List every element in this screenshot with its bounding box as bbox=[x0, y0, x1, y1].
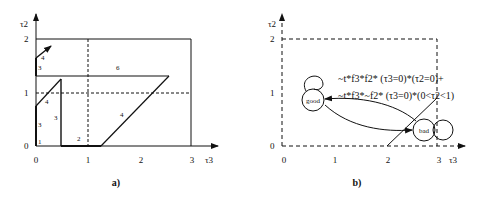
guard-line-2: ~t*f3*~f2* (τ3=0)*(0<τ2<1) bbox=[338, 90, 454, 102]
x-tick-0-a: 0 bbox=[34, 155, 39, 165]
y-tick-0-a: 0 bbox=[24, 141, 29, 151]
region-label-1: 1 bbox=[38, 138, 42, 146]
region-label-4-top: 4 bbox=[41, 54, 45, 62]
region-label-2: 2 bbox=[77, 135, 81, 143]
region-label-4-small: 4 bbox=[45, 98, 49, 106]
panel-a: 0 1 2 3 τ3 0 1 2 τ2 1 2 3 3 3 4 4 4 6 a) bbox=[20, 14, 218, 189]
y-tick-2-a: 2 bbox=[24, 34, 29, 44]
state-good-label: good bbox=[306, 97, 321, 105]
y-tick-0-b: 0 bbox=[270, 141, 275, 151]
x-axis-label-a: τ3 bbox=[205, 155, 214, 165]
figure-canvas: 0 1 2 3 τ3 0 1 2 τ2 1 2 3 3 3 4 4 4 6 a)… bbox=[0, 0, 491, 197]
x-tick-2-a: 2 bbox=[139, 155, 144, 165]
panel-b: good bad ~t*f3*f2* (τ3=0)*(τ2=0)+ ~t*f3*… bbox=[268, 14, 465, 189]
y-axis-label-a: τ2 bbox=[20, 19, 28, 29]
y-axis-label-b: τ2 bbox=[268, 19, 276, 29]
caption-a: a) bbox=[112, 177, 120, 189]
transition-bad-to-good bbox=[325, 98, 416, 121]
x-tick-1-a: 1 bbox=[86, 155, 91, 165]
region-label-3-top: 3 bbox=[38, 64, 42, 72]
y-tick-1-b: 1 bbox=[270, 88, 275, 98]
region-label-3-mid: 3 bbox=[54, 114, 58, 122]
region-label-6: 6 bbox=[116, 64, 120, 72]
state-bad-label: bad bbox=[419, 127, 430, 135]
x-tick-3-a: 3 bbox=[190, 155, 195, 165]
y-tick-1-a: 1 bbox=[24, 88, 29, 98]
region-label-3-bottom: 3 bbox=[38, 121, 42, 129]
transition-good-to-bad bbox=[325, 105, 412, 130]
x-tick-0-b: 0 bbox=[282, 155, 287, 165]
x-tick-1-b: 1 bbox=[333, 155, 338, 165]
caption-b: b) bbox=[353, 177, 362, 189]
x-axis-label-b: τ3 bbox=[449, 155, 458, 165]
diagonal-boundary-a bbox=[101, 76, 169, 146]
self-loop-bad bbox=[433, 120, 453, 140]
region-label-4-diag: 4 bbox=[120, 111, 124, 119]
x-tick-3-b: 3 bbox=[437, 155, 442, 165]
guard-line-1: ~t*f3*f2* (τ3=0)*(τ2=0)+ bbox=[338, 73, 444, 85]
y-tick-2-b: 2 bbox=[270, 34, 275, 44]
x-tick-2-b: 2 bbox=[386, 155, 391, 165]
